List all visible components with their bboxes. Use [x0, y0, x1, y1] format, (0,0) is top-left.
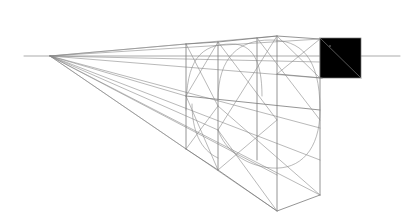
right-extension-box	[277, 38, 361, 78]
perspective-drawing	[0, 0, 419, 224]
construction-mark	[329, 45, 331, 47]
vanishing-rays	[50, 36, 320, 211]
sketch-svg	[0, 0, 419, 224]
vertical-edges	[186, 36, 322, 211]
